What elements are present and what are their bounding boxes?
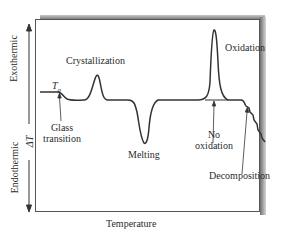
delta-t-label: ΔT [24, 131, 35, 153]
oxidation-label: Oxidation [225, 42, 265, 53]
glass-transition-line2: transition [40, 133, 84, 144]
glass-transition-line1: Glass [40, 122, 84, 133]
endothermic-label: Endothermic [9, 139, 20, 197]
tg-subscript: g [58, 86, 62, 94]
no-oxidation-line1: No [192, 129, 236, 140]
melting-label: Melting [128, 149, 160, 160]
x-axis-label: Temperature [106, 218, 156, 229]
no-oxidation-line2: oxidation [192, 140, 236, 151]
glass-transition-label: Glass transition [40, 122, 84, 144]
tg-label: Tg [52, 80, 61, 96]
exothermic-label: Exothermic [8, 34, 19, 84]
y-axis-arrows [27, 24, 32, 212]
dsc-curve [0, 0, 299, 237]
no-oxidation-label: No oxidation [192, 129, 236, 151]
decomposition-label: Decomposition [209, 170, 270, 181]
crystallization-label: Crystallization [66, 55, 125, 66]
